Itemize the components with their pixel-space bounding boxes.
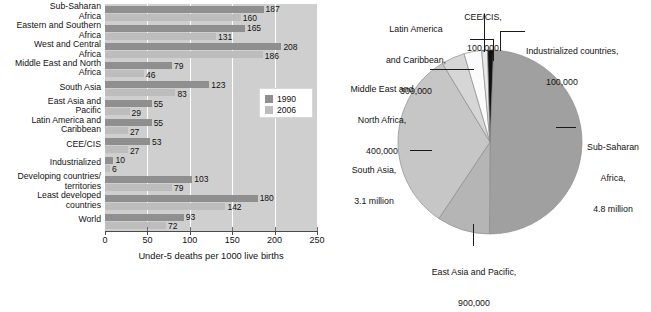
leader-line-industrialized-drop — [500, 31, 501, 51]
leader-line-industrialized — [500, 31, 525, 32]
x-axis-title: Under-5 deaths per 1000 live births — [105, 251, 317, 261]
bar-value-2006: 131 — [218, 33, 232, 42]
bar-category-label: Developing countries/ territories — [0, 172, 101, 191]
bar-2006[interactable] — [105, 33, 216, 40]
bar-value-1990: 187 — [266, 5, 280, 14]
bar-2006[interactable] — [105, 184, 172, 191]
bar-1990[interactable] — [105, 195, 258, 202]
bar-1990[interactable] — [105, 62, 172, 69]
bar-value-2006: 79 — [174, 184, 183, 193]
bar-group: 5527 — [105, 118, 317, 137]
x-tick-label: 150 — [217, 236, 247, 245]
bar-value-2006: 6 — [112, 165, 117, 174]
bar-value-1990: 208 — [283, 43, 297, 52]
bar-group: 165131 — [105, 24, 317, 43]
x-minor-tick — [147, 227, 148, 231]
bar-group: 187160 — [105, 5, 317, 24]
pie-label-cee-cis-l2: 100,000 — [440, 43, 526, 53]
pie-label-industrialized: Industrialized countries, 100,000 — [526, 26, 651, 108]
leader-line-middle-east — [430, 69, 474, 70]
pie-label-cee-cis-l1: CEE/CIS, — [440, 12, 526, 22]
bar-value-2006: 83 — [177, 90, 186, 99]
bar-1990[interactable] — [105, 214, 184, 221]
bar-2006[interactable] — [105, 70, 144, 77]
bar-2006[interactable] — [105, 222, 166, 229]
x-tick-label: 100 — [175, 236, 205, 245]
bar-2006[interactable] — [105, 51, 263, 58]
leader-line-east-asia — [473, 224, 474, 246]
bar-value-2006: 186 — [265, 52, 279, 61]
bar-1990[interactable] — [105, 43, 281, 50]
pie-label-south-asia-l1: South Asia, — [332, 165, 416, 175]
bar-2006[interactable] — [105, 14, 241, 21]
bar-value-2006: 27 — [130, 147, 139, 156]
bar-2006[interactable] — [105, 165, 110, 172]
legend-label-1990: 1990 — [277, 94, 296, 104]
pie-label-middle-east-l1: Middle East and — [330, 84, 434, 94]
bar-2006[interactable] — [105, 127, 128, 134]
bar-group: 208186 — [105, 42, 317, 61]
bar-1990[interactable] — [105, 100, 152, 107]
bar-2006[interactable] — [105, 203, 225, 210]
x-tick-label: 250 — [302, 236, 332, 245]
bar-category-label: Eastern and Southern Africa — [0, 21, 101, 40]
bar-category-label: West and Central Africa — [0, 40, 101, 59]
bar-chart: 1871601651312081867946123835529552753271… — [0, 0, 330, 276]
legend-label-2006: 2006 — [277, 105, 296, 115]
x-tick-label: 200 — [260, 236, 290, 245]
pie-label-sub-saharan: Sub-Saharan Africa, 4.8 million — [576, 122, 650, 234]
bar-group: 9372 — [105, 213, 317, 232]
bar-category-label: South Asia — [0, 83, 101, 93]
bar-2006[interactable] — [105, 108, 130, 115]
x-tick-label: 0 — [90, 236, 120, 245]
x-minor-tick — [275, 227, 276, 231]
pie-label-east-asia-l2: 900,000 — [404, 298, 544, 308]
bar-category-label: Least developed countries — [0, 191, 101, 210]
bar-value-2006: 72 — [168, 222, 177, 231]
bar-1990[interactable] — [105, 25, 245, 32]
bar-value-2006: 46 — [146, 71, 155, 80]
bar-2006[interactable] — [105, 89, 175, 96]
x-minor-tick — [232, 227, 233, 231]
bar-1990[interactable] — [105, 176, 192, 183]
bar-group: 106 — [105, 156, 317, 175]
pie-label-east-asia-l1: East Asia and Pacific, — [404, 267, 544, 277]
bar-value-1990: 55 — [154, 100, 163, 109]
legend-swatch-2006 — [265, 106, 273, 114]
bar-2006[interactable] — [105, 146, 128, 153]
bar-1990[interactable] — [105, 81, 209, 88]
bar-1990[interactable] — [105, 119, 152, 126]
bar-value-1990: 79 — [174, 62, 183, 71]
pie-label-industrialized-l2: 100,000 — [526, 77, 651, 87]
bar-category-label: Latin America and Caribbean — [0, 116, 101, 135]
pie-chart: Latin America and Caribbean, 300,000 CEE… — [330, 0, 651, 276]
pie-label-sub-saharan-l1: Sub-Saharan — [576, 142, 650, 152]
bar-group: 180142 — [105, 194, 317, 213]
pie-label-south-asia: South Asia, 3.1 million — [332, 145, 416, 227]
bar-value-1990: 123 — [211, 81, 225, 90]
pie-label-sub-saharan-l2: Africa, — [576, 173, 650, 183]
pie-label-cee-cis: CEE/CIS, 100,000 — [440, 0, 526, 74]
leader-line-cee-cis — [484, 14, 485, 52]
leader-line-south-asia — [410, 150, 432, 151]
pie-label-south-asia-l2: 3.1 million — [332, 196, 416, 206]
bar-value-2006: 142 — [227, 203, 241, 212]
bar-category-label: Middle East and North Africa — [0, 59, 101, 78]
x-tick-label: 50 — [132, 236, 162, 245]
pie-label-sub-saharan-l3: 4.8 million — [576, 204, 650, 214]
bar-value-1990: 55 — [154, 119, 163, 128]
bar-category-label: Sub-Saharan Africa — [0, 2, 101, 21]
bar-1990[interactable] — [105, 138, 150, 145]
x-axis-line — [105, 231, 317, 232]
bar-category-label: World — [0, 215, 101, 225]
bar-1990[interactable] — [105, 157, 113, 164]
bar-group: 10379 — [105, 175, 317, 194]
x-minor-tick — [317, 227, 318, 231]
bar-value-1990: 93 — [186, 213, 195, 222]
bar-1990[interactable] — [105, 6, 264, 13]
pie-label-industrialized-l1: Industrialized countries, — [526, 46, 651, 56]
bar-legend[interactable]: 1990 2006 — [259, 88, 313, 118]
bar-value-2006: 27 — [130, 128, 139, 137]
pie-label-middle-east-l2: North Africa, — [330, 115, 434, 125]
